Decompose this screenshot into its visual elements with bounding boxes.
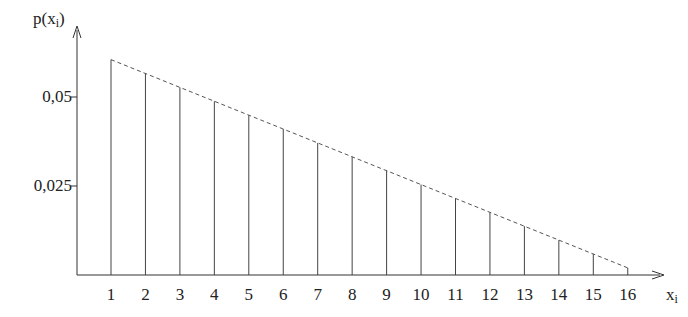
x-tick-label: 10 bbox=[406, 286, 436, 303]
x-tick-label: 9 bbox=[372, 286, 402, 303]
chart-plot bbox=[0, 0, 688, 317]
x-tick-label: 16 bbox=[613, 286, 643, 303]
x-tick-label: 5 bbox=[234, 286, 264, 303]
y-axis-label: p(xi) bbox=[33, 10, 65, 29]
x-axis-label-sub: i bbox=[675, 292, 678, 306]
x-tick-label: 7 bbox=[303, 286, 333, 303]
x-tick-label: 8 bbox=[337, 286, 367, 303]
x-tick-label: 13 bbox=[509, 286, 539, 303]
x-tick-label: 6 bbox=[268, 286, 298, 303]
y-axis-label-close: ) bbox=[59, 9, 65, 28]
y-tick-label: 0,05 bbox=[42, 88, 72, 105]
x-tick-label: 3 bbox=[165, 286, 195, 303]
x-axis-label-main: x bbox=[666, 285, 675, 304]
y-axis-label-main: p(x bbox=[33, 9, 56, 28]
x-tick-label: 14 bbox=[544, 286, 574, 303]
x-tick-label: 4 bbox=[199, 286, 229, 303]
y-tick-label: 0,025 bbox=[34, 177, 72, 194]
x-tick-label: 1 bbox=[96, 286, 126, 303]
x-tick-label: 15 bbox=[578, 286, 608, 303]
x-tick-label: 12 bbox=[475, 286, 505, 303]
x-tick-label: 2 bbox=[130, 286, 160, 303]
dashed-trend-line bbox=[111, 60, 628, 268]
x-axis-label: xi bbox=[666, 286, 678, 305]
x-tick-label: 11 bbox=[441, 286, 471, 303]
